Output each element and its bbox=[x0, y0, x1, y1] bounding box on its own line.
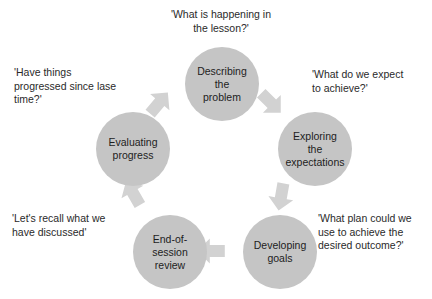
arrow-exploring-to-developing-icon bbox=[264, 180, 299, 215]
caption-have-things-progressed: 'Have things progressed since lase time?… bbox=[14, 66, 144, 107]
node-label: End-of- session review bbox=[148, 233, 192, 272]
node-exploring-the-expectations: Exploring the expectations bbox=[278, 112, 352, 186]
node-describing-the-problem: Describing the problem bbox=[185, 47, 259, 121]
cycle-diagram: 'What is happening in the lesson?' 'Have… bbox=[0, 0, 432, 299]
node-label: Evaluating progress bbox=[104, 136, 161, 162]
caption-what-do-we-expect: 'What do we expect to achieve?' bbox=[312, 68, 430, 95]
node-label: Developing goals bbox=[250, 239, 311, 265]
node-label: Describing the problem bbox=[193, 65, 251, 104]
node-developing-goals: Developing goals bbox=[243, 215, 317, 289]
caption-lets-recall: 'Let's recall what we have discussed' bbox=[12, 212, 140, 239]
caption-what-is-happening: 'What is happening in the lesson?' bbox=[146, 8, 296, 35]
node-evaluating-progress: Evaluating progress bbox=[96, 112, 170, 186]
caption-what-plan-could-we-use: 'What plan could we use to achieve the d… bbox=[318, 212, 432, 253]
node-label: Exploring the expectations bbox=[282, 130, 349, 169]
node-end-of-session-review: End-of- session review bbox=[133, 215, 207, 289]
